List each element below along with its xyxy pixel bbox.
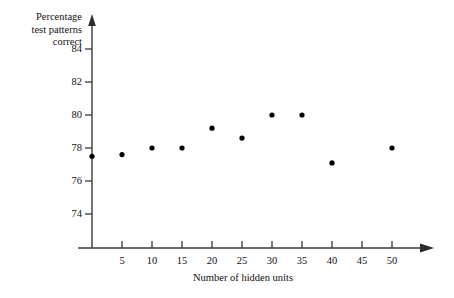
data-point-group [89,112,394,165]
data-point [269,112,274,117]
data-point [299,112,304,117]
data-point [389,145,394,150]
data-point [149,145,154,150]
x-axis-ticks [122,241,392,248]
y-axis-ticks [85,49,92,214]
data-point [239,136,244,141]
scatter-plot-figure: Percentage test patterns correct 84 82 8… [0,0,454,298]
x-axis-arrowhead-icon [420,244,434,253]
x-axis-title-text: Number of hidden units [193,272,293,283]
data-point [89,154,94,159]
data-point [329,160,334,165]
y-axis-arrowhead-icon [88,14,96,26]
data-point [119,152,124,157]
data-point [179,145,184,150]
x-axis-title: Number of hidden units [0,272,454,283]
data-point [209,126,214,131]
caption-remnant [8,289,158,298]
plot-area [0,0,454,298]
